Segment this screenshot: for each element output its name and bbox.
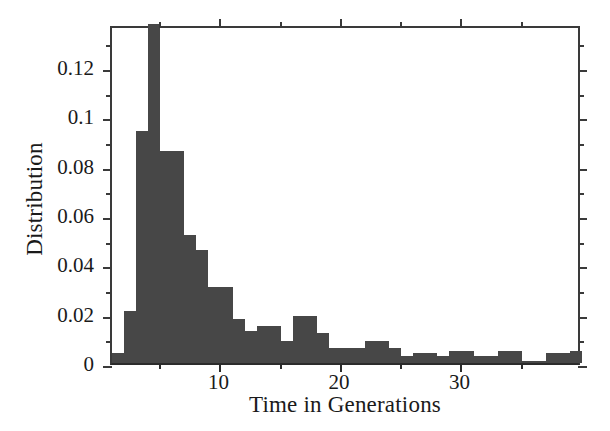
x-axis-tick-label: 10 bbox=[188, 372, 248, 393]
x-axis-minor-tick bbox=[280, 22, 282, 28]
histogram-bar bbox=[112, 353, 124, 363]
y-axis-minor-tick bbox=[578, 95, 584, 97]
y-axis-tick bbox=[578, 218, 587, 220]
histogram-bar bbox=[389, 348, 401, 363]
histogram-bar bbox=[474, 356, 486, 363]
x-axis-minor-tick bbox=[400, 363, 402, 369]
y-axis-tick bbox=[578, 317, 587, 319]
histogram-bar bbox=[425, 353, 437, 363]
histogram-bar bbox=[281, 341, 293, 363]
y-axis-minor-tick bbox=[578, 45, 584, 47]
y-axis-tick bbox=[103, 218, 112, 220]
histogram-bar bbox=[233, 319, 245, 363]
x-axis-title: Time in Generations bbox=[110, 392, 580, 418]
histogram-bar bbox=[534, 361, 546, 363]
y-axis-tick bbox=[103, 169, 112, 171]
y-axis-tick bbox=[578, 169, 587, 171]
histogram-figure: Distribution Time in Generations 00.020.… bbox=[0, 0, 610, 431]
histogram-bar bbox=[136, 131, 148, 363]
histogram-bar bbox=[365, 341, 377, 363]
y-axis-tick bbox=[103, 70, 112, 72]
y-axis-tick bbox=[578, 70, 587, 72]
histogram-bar bbox=[449, 351, 461, 363]
y-axis-tick-label: 0.02 bbox=[14, 305, 94, 326]
histogram-bar bbox=[401, 356, 413, 363]
histogram-bar bbox=[329, 348, 341, 363]
histogram-bars bbox=[112, 28, 578, 363]
y-axis-tick bbox=[578, 119, 587, 121]
y-axis-minor-tick bbox=[578, 341, 584, 343]
y-axis-minor-tick bbox=[106, 292, 112, 294]
histogram-bar bbox=[172, 151, 184, 363]
x-axis-minor-tick bbox=[280, 363, 282, 369]
x-axis-tick bbox=[460, 19, 462, 28]
y-axis-minor-tick bbox=[578, 292, 584, 294]
histogram-bar bbox=[413, 353, 425, 363]
x-axis-minor-tick bbox=[159, 363, 161, 369]
y-axis-minor-tick bbox=[578, 144, 584, 146]
y-axis-tick bbox=[103, 119, 112, 121]
y-axis-minor-tick bbox=[578, 193, 584, 195]
histogram-bar bbox=[245, 331, 257, 363]
y-axis-tick-label: 0.1 bbox=[14, 107, 94, 128]
y-axis-tick-label: 0.12 bbox=[14, 58, 94, 79]
x-axis-minor-tick bbox=[159, 22, 161, 28]
y-axis-tick-label: 0.04 bbox=[14, 255, 94, 276]
y-axis-tick-label: 0 bbox=[14, 354, 94, 375]
histogram-bar bbox=[437, 356, 449, 363]
histogram-bar bbox=[498, 351, 510, 363]
x-axis-tick bbox=[219, 19, 221, 28]
histogram-bar bbox=[353, 348, 365, 363]
y-axis-minor-tick bbox=[106, 45, 112, 47]
histogram-bar bbox=[293, 316, 305, 363]
x-axis-tick bbox=[340, 19, 342, 28]
histogram-bar bbox=[341, 348, 353, 363]
histogram-bar bbox=[510, 351, 522, 363]
y-axis-tick bbox=[103, 267, 112, 269]
x-axis-minor-tick bbox=[400, 22, 402, 28]
histogram-bar bbox=[461, 351, 473, 363]
histogram-bar bbox=[317, 333, 329, 363]
x-axis-tick-label: 20 bbox=[309, 372, 369, 393]
histogram-bar bbox=[558, 353, 570, 363]
histogram-bar bbox=[269, 326, 281, 363]
histogram-bar bbox=[148, 24, 160, 363]
histogram-bar bbox=[522, 361, 534, 363]
y-axis-minor-tick bbox=[106, 341, 112, 343]
y-axis-tick-label: 0.06 bbox=[14, 206, 94, 227]
histogram-bar bbox=[220, 287, 232, 363]
y-axis-tick bbox=[103, 366, 112, 368]
histogram-bar bbox=[546, 353, 558, 363]
x-axis-minor-tick bbox=[521, 22, 523, 28]
y-axis-minor-tick bbox=[106, 144, 112, 146]
x-axis-minor-tick bbox=[521, 363, 523, 369]
histogram-bar bbox=[570, 351, 582, 363]
histogram-bar bbox=[305, 316, 317, 363]
y-axis-tick bbox=[578, 267, 587, 269]
histogram-bar bbox=[377, 341, 389, 363]
y-axis-tick-label: 0.08 bbox=[14, 157, 94, 178]
histogram-bar bbox=[486, 356, 498, 363]
plot-area bbox=[110, 26, 580, 365]
x-axis-tick-label: 30 bbox=[429, 372, 489, 393]
y-axis-minor-tick bbox=[106, 95, 112, 97]
histogram-bar bbox=[257, 326, 269, 363]
y-axis-tick bbox=[103, 317, 112, 319]
histogram-bar bbox=[160, 151, 172, 363]
y-axis-minor-tick bbox=[106, 193, 112, 195]
histogram-bar bbox=[208, 287, 220, 363]
histogram-bar bbox=[184, 235, 196, 363]
histogram-bar bbox=[196, 250, 208, 363]
y-axis-minor-tick bbox=[106, 243, 112, 245]
y-axis-minor-tick bbox=[578, 243, 584, 245]
histogram-bar bbox=[124, 311, 136, 363]
y-axis-tick bbox=[578, 366, 587, 368]
